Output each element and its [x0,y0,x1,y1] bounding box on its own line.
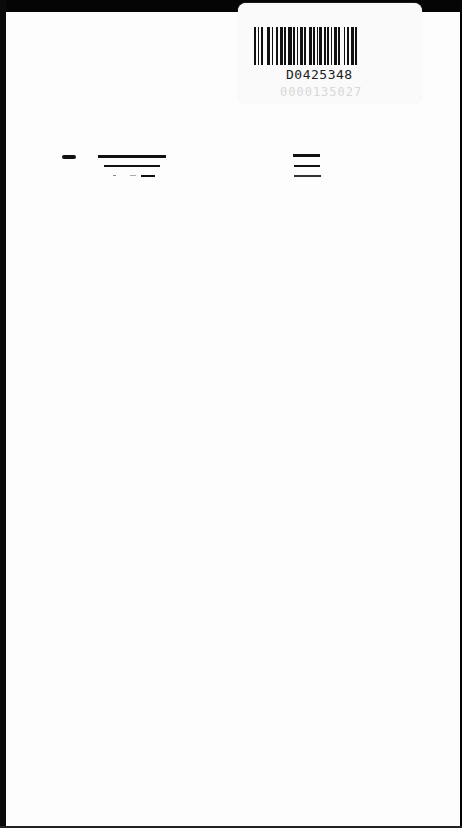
barcode-id: D0425348 [286,67,353,82]
short-dash-mark [62,155,76,159]
dotted-rule-mark-b [130,175,136,176]
long-rule-mark [98,155,166,158]
right-rule-2 [294,165,320,167]
barcode-faint-number: 0000135027 [280,85,362,99]
right-rule-1 [293,154,320,157]
medium-rule-mark [104,165,160,167]
document-page [6,12,460,826]
barcode-sticker: D0425348 0000135027 [238,3,422,103]
barcode-graphic [254,27,394,65]
dotted-rule-mark-a [113,175,116,176]
right-rule-3 [294,175,321,177]
dotted-rule-mark-c [141,175,155,177]
